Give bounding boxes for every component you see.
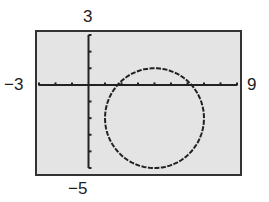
screen-frame bbox=[36, 31, 241, 175]
graph-screen bbox=[0, 0, 269, 202]
